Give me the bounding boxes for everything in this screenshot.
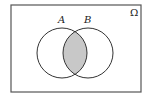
- universe-label: Ω: [130, 7, 138, 18]
- venn-diagram: A B Ω: [0, 0, 147, 95]
- set-a-label: A: [57, 14, 65, 25]
- set-b-label: B: [83, 14, 91, 25]
